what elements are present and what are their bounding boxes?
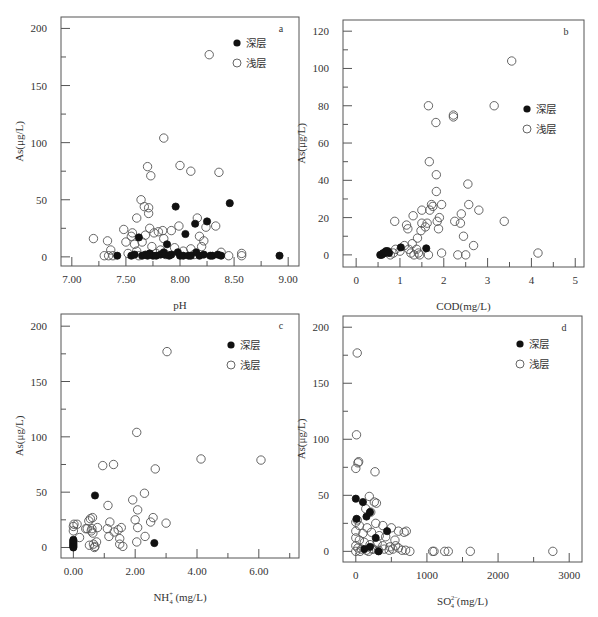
point-shallow [371, 468, 379, 476]
legend-deep-label: 深层 [240, 339, 260, 351]
legend-shallow-label: 浅层 [246, 57, 266, 69]
panel-letter: c [279, 320, 284, 331]
x-tick-label: 9.00 [279, 273, 299, 285]
x-tick-label: 7.00 [62, 273, 82, 285]
point-shallow [133, 523, 141, 531]
legend-deep-marker-icon [233, 39, 240, 46]
point-shallow [464, 180, 472, 188]
point-shallow [116, 534, 124, 542]
y-tick-label: 200 [31, 320, 48, 332]
series-shallow [386, 57, 542, 259]
point-shallow [465, 200, 473, 208]
data-points [377, 57, 543, 259]
x-label-main: pH [173, 299, 187, 311]
point-deep [192, 220, 199, 227]
plot-frame [61, 314, 299, 558]
panel-a: 0501001502007.007.508.008.509.00As(μg/L)… [13, 17, 299, 311]
point-shallow [409, 212, 417, 220]
point-deep [366, 509, 373, 516]
point-shallow [352, 431, 360, 439]
series-shallow [89, 50, 246, 259]
point-shallow [120, 225, 128, 233]
point-shallow [105, 532, 113, 540]
point-shallow [500, 217, 508, 225]
series-shallow [352, 349, 557, 556]
point-shallow [237, 249, 245, 257]
point-deep [372, 534, 379, 541]
x-axis-label: SO2−4 (mg/L) [437, 594, 488, 609]
point-shallow [133, 506, 141, 514]
legend-shallow-marker-icon [523, 125, 531, 133]
x-axis-label: NH+4 (mg/L) [153, 590, 206, 605]
point-shallow [457, 210, 465, 218]
point-shallow [212, 222, 220, 230]
legend-deep-marker-icon [516, 340, 523, 347]
point-deep [352, 495, 359, 502]
point-shallow [175, 222, 183, 230]
y-tick-label: 0 [324, 545, 330, 557]
x-tick-label: 2.00 [126, 565, 146, 577]
x-tick-label: 1 [397, 274, 403, 286]
legend: 深层浅层 [516, 338, 549, 370]
x-axis-label: COD(mg/L) [436, 300, 491, 313]
x-label-unit: (mg/L) [457, 595, 488, 608]
point-deep [182, 230, 189, 237]
x-tick-label: 8.50 [224, 273, 244, 285]
series-shallow [69, 347, 265, 551]
point-shallow [449, 111, 457, 119]
point-shallow [508, 57, 516, 65]
point-shallow [140, 489, 148, 497]
point-deep [423, 245, 430, 252]
x-axis: 7.007.508.008.509.00 [62, 257, 298, 285]
point-shallow [205, 50, 213, 58]
point-shallow [109, 460, 117, 468]
legend-shallow-marker-icon [516, 360, 524, 368]
point-shallow [141, 532, 149, 540]
data-points [69, 347, 265, 551]
y-tick-label: 50 [36, 486, 48, 498]
data-points [89, 50, 283, 259]
point-shallow [451, 217, 459, 225]
point-shallow [461, 251, 469, 259]
legend: 深层浅层 [523, 103, 556, 135]
panel-letter: a [279, 23, 284, 34]
point-deep [353, 515, 360, 522]
x-tick-label: 3000 [558, 569, 581, 581]
panel-letter: b [564, 26, 569, 37]
y-tick-label: 0 [324, 249, 330, 261]
point-shallow [469, 241, 477, 249]
y-tick-label: 40 [318, 174, 330, 186]
y-axis-label: As(μg/L) [295, 123, 308, 164]
plot-frame [343, 20, 584, 267]
point-shallow [107, 246, 115, 254]
y-tick-label: 60 [318, 137, 330, 149]
point-shallow [394, 527, 402, 535]
point-shallow [365, 492, 373, 500]
legend-shallow-label: 浅层 [529, 358, 549, 370]
point-shallow [456, 219, 464, 227]
point-shallow [143, 162, 151, 170]
y-tick-label: 200 [313, 321, 330, 333]
point-shallow [425, 157, 433, 165]
figure-canvas: 0501001502007.007.508.008.509.00As(μg/L)… [0, 0, 598, 617]
point-shallow [549, 547, 557, 555]
series-deep [114, 200, 283, 260]
point-shallow [167, 226, 175, 234]
legend-deep-marker-icon [227, 341, 234, 348]
point-shallow [163, 347, 171, 355]
point-deep [135, 234, 142, 241]
y-axis-label: As(μg/L) [13, 415, 26, 456]
point-shallow [176, 161, 184, 169]
point-shallow [466, 547, 474, 555]
point-shallow [215, 168, 223, 176]
x-tick-label: 0 [353, 274, 359, 286]
point-shallow [162, 519, 170, 527]
point-deep [384, 528, 391, 535]
x-tick-label: 4 [529, 274, 535, 286]
point-deep [114, 252, 121, 259]
y-axis: 050100150200 [31, 320, 71, 553]
plot-frame [61, 17, 299, 266]
y-tick-label: 50 [318, 489, 330, 501]
point-deep [70, 536, 77, 543]
point-shallow [187, 167, 195, 175]
